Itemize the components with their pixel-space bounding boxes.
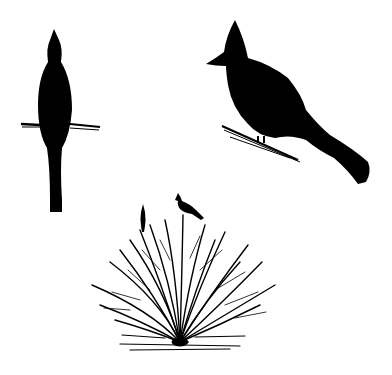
small-bird-front-icon — [141, 204, 146, 232]
bush-icon — [92, 215, 275, 350]
bird-front-view-icon — [21, 29, 100, 212]
small-bird-side-icon — [175, 193, 204, 220]
bird-side-view-icon — [206, 20, 370, 184]
illustration-canvas — [0, 0, 392, 375]
